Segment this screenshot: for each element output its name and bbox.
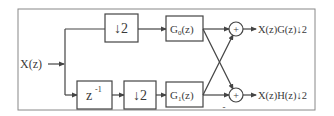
downsample-bottom-block: ↓2 <box>124 81 156 109</box>
bottom-adder-symbol: + <box>233 90 239 101</box>
downsample-bottom-label: ↓2 <box>133 88 147 103</box>
bottom-adder: + - <box>223 88 244 112</box>
svg-text:G0(z): G0(z) <box>170 23 194 37</box>
svg-text:z: z <box>86 88 92 103</box>
top-adder: + <box>229 22 243 36</box>
top-adder-symbol: + <box>233 24 239 35</box>
downsample-top-block: ↓2 <box>105 14 138 42</box>
delay-block: z -1 <box>77 81 112 109</box>
g0-label: G <box>170 23 178 35</box>
g1-suffix: (z) <box>181 89 194 102</box>
delay-label: z <box>86 88 92 103</box>
input-label: X(z) <box>20 57 42 71</box>
filter-bank-diagram: X(z) ↓2 z -1 ↓2 G0(z) G1(z) + <box>0 0 334 116</box>
top-output-label: X(z)G(z)↓2 <box>258 24 307 36</box>
svg-text:G1(z): G1(z) <box>170 89 194 103</box>
downsample-top-label: ↓2 <box>114 21 128 36</box>
g1-label: G <box>170 89 178 101</box>
g1-filter-block: G1(z) <box>166 82 203 107</box>
g0-filter-block: G0(z) <box>166 16 203 41</box>
bottom-adder-minus-sign: - <box>223 102 226 112</box>
bottom-output-label: X(z)H(z)↓2 <box>258 90 307 102</box>
g1-to-top-adder-arrow <box>203 35 233 95</box>
g0-suffix: (z) <box>181 23 194 36</box>
delay-superscript: -1 <box>95 85 102 94</box>
g0-to-bottom-adder-arrow <box>203 29 233 89</box>
